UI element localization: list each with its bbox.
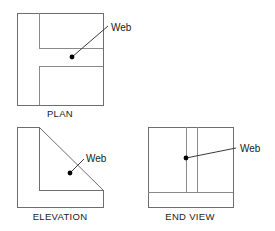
plan-view: Web PLAN [17,13,132,119]
plan-web-leader-dot [70,55,75,60]
end-view-web-leader-line [186,148,236,158]
plan-view-label: PLAN [47,108,73,119]
elevation-web-label: Web [86,153,107,164]
end-view-view-label: END VIEW [165,211,214,222]
end-view-web-leader-dot [184,156,189,161]
elevation-view: Web ELEVATION [17,127,107,222]
plan-web-label: Web [111,22,132,33]
orthographic-drawing: Web PLAN Web ELEVATION Web END VIEW [0,0,275,231]
elevation-web-leader-dot [68,171,73,176]
end-view: Web END VIEW [148,127,261,222]
elevation-view-label: ELEVATION [33,211,88,222]
drawing-canvas: Web PLAN Web ELEVATION Web END VIEW [0,0,275,231]
plan-outline [17,13,103,105]
elevation-web-leader-line [70,159,84,173]
elevation-outline [17,127,103,207]
end-view-web-label: Web [240,143,261,154]
end-view-outline [148,127,233,207]
